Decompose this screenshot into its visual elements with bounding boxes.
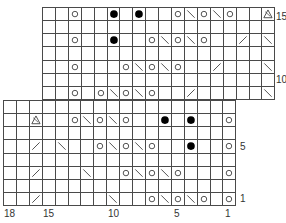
knit-cell <box>211 154 224 167</box>
knit-cell <box>185 101 198 114</box>
yarn-over-icon <box>120 140 133 153</box>
knit-cell <box>43 47 56 60</box>
yarn-over-icon <box>146 34 159 47</box>
knit-cell <box>185 61 198 74</box>
knit-cell <box>43 140 56 153</box>
knit-cell <box>146 8 159 21</box>
knit-cell <box>146 127 159 140</box>
knit-cell <box>94 193 107 206</box>
yarn-over-icon <box>172 61 185 74</box>
knit-cell <box>56 34 69 47</box>
knit-cell <box>108 21 121 34</box>
yarn-over-icon <box>172 8 185 21</box>
knit-cell <box>108 47 121 60</box>
knit-cell <box>43 154 56 167</box>
knit-cell <box>185 127 198 140</box>
knit-cell <box>95 34 108 47</box>
knit-cell <box>133 47 146 60</box>
ssk-decrease-icon <box>262 34 275 47</box>
yarn-over-icon <box>120 114 133 127</box>
k2tog-decrease-icon <box>211 61 224 74</box>
knit-cell <box>95 61 108 74</box>
yarn-over-icon <box>223 193 236 206</box>
yarn-over-icon <box>69 87 82 100</box>
knit-cell <box>94 167 107 180</box>
knit-cell <box>69 154 82 167</box>
knit-cell <box>159 127 172 140</box>
knit-cell <box>17 101 30 114</box>
ssk-decrease-icon <box>159 61 172 74</box>
knit-cell <box>211 74 224 87</box>
yarn-over-icon <box>224 8 237 21</box>
yarn-over-icon <box>94 140 107 153</box>
knit-cell <box>69 167 82 180</box>
knit-cell <box>30 127 43 140</box>
knit-cell <box>237 47 250 60</box>
knit-cell <box>146 21 159 34</box>
knit-cell <box>159 8 172 21</box>
ssk-decrease-icon <box>159 167 172 180</box>
stitch-number-label: 18 <box>4 209 15 219</box>
knit-cell <box>262 74 275 87</box>
knit-cell <box>223 127 236 140</box>
knit-cell <box>69 140 82 153</box>
knit-cell <box>56 21 69 34</box>
knit-cell <box>120 180 133 193</box>
knit-cell <box>250 47 263 60</box>
yarn-over-icon <box>94 114 107 127</box>
knit-cell <box>82 21 95 34</box>
yarn-over-icon <box>146 87 159 100</box>
knit-cell <box>81 154 94 167</box>
knit-cell <box>223 101 236 114</box>
knit-cell <box>107 167 120 180</box>
knit-cell <box>43 180 56 193</box>
knit-cell <box>185 180 198 193</box>
knit-cell <box>146 114 159 127</box>
double-decrease-icon <box>30 114 43 127</box>
knit-cell <box>224 47 237 60</box>
knit-cell <box>17 180 30 193</box>
yarn-over-icon <box>69 114 82 127</box>
knit-cell <box>82 47 95 60</box>
knit-cell <box>4 127 17 140</box>
knit-cell <box>43 21 56 34</box>
knit-cell <box>81 180 94 193</box>
yarn-over-icon <box>120 87 133 100</box>
knit-cell <box>69 21 82 34</box>
knit-cell <box>56 101 69 114</box>
upper-chart-section <box>42 7 275 100</box>
knit-cell <box>211 193 224 206</box>
knit-cell <box>172 101 185 114</box>
knit-cell <box>4 140 17 153</box>
lower-chart-section <box>3 100 236 206</box>
knit-cell <box>43 34 56 47</box>
ssk-decrease-icon <box>262 61 275 74</box>
knit-cell <box>172 154 185 167</box>
knit-cell <box>172 140 185 153</box>
knit-cell <box>107 154 120 167</box>
row-number-label: 10 <box>276 75 286 85</box>
yarn-over-icon <box>172 193 185 206</box>
yarn-over-icon <box>198 193 211 206</box>
knit-cell <box>159 154 172 167</box>
knit-cell <box>43 167 56 180</box>
knit-cell <box>198 21 211 34</box>
knit-cell <box>120 8 133 21</box>
knit-cell <box>250 8 263 21</box>
knit-cell <box>198 87 211 100</box>
knit-cell <box>159 47 172 60</box>
ssk-decrease-icon <box>81 167 94 180</box>
knit-cell <box>4 154 17 167</box>
double-decrease-icon <box>262 8 275 21</box>
knit-cell <box>146 47 159 60</box>
ssk-decrease-icon <box>133 140 146 153</box>
knit-cell <box>198 74 211 87</box>
ssk-decrease-icon <box>159 34 172 47</box>
knit-cell <box>159 74 172 87</box>
knit-cell <box>120 193 133 206</box>
ssk-decrease-icon <box>133 167 146 180</box>
knit-cell <box>211 21 224 34</box>
knit-cell <box>237 21 250 34</box>
knit-cell <box>133 154 146 167</box>
yarn-over-icon <box>223 140 236 153</box>
